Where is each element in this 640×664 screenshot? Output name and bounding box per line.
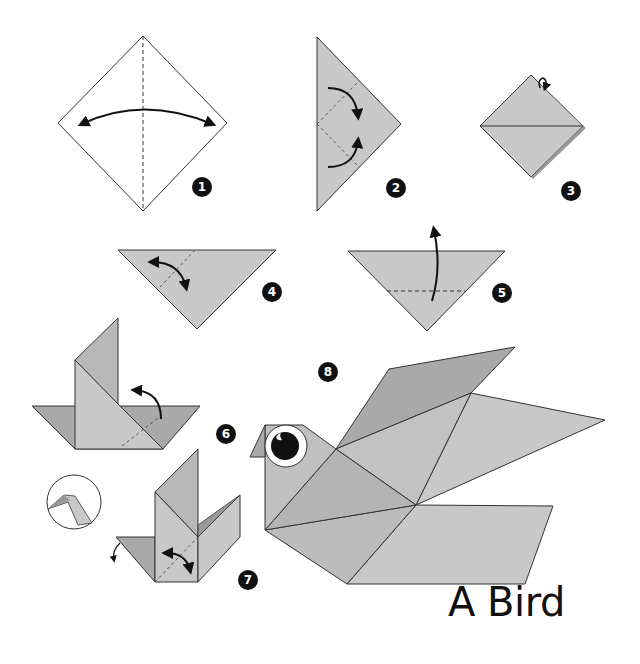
step-badge-2: 2 [386, 178, 406, 198]
origami-bird-diagram [0, 0, 640, 664]
step-badge-3: 3 [561, 181, 581, 201]
step-badge-8: 8 [318, 362, 338, 382]
step-badge-7: 7 [238, 570, 258, 590]
step-4-figure [118, 250, 276, 329]
step-badge-4: 4 [262, 282, 282, 302]
step-5-figure [348, 230, 505, 331]
bird-pupil [271, 432, 299, 460]
step-badge-1: 1 [192, 177, 212, 197]
step-3-figure [480, 75, 586, 179]
step-badge-6: 6 [216, 424, 236, 444]
step-7-figure [114, 449, 240, 582]
diagram-title: A Bird [448, 582, 565, 622]
step-8-finished-bird [250, 347, 605, 584]
step-6-figure [32, 318, 200, 449]
step-7-detail-inset [47, 475, 101, 529]
step-badge-5: 5 [492, 283, 512, 303]
